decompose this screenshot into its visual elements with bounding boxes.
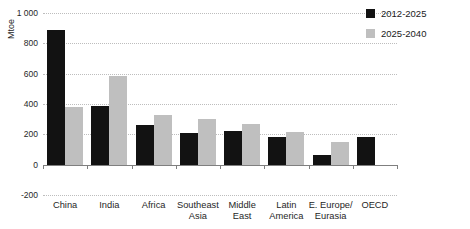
axis-tick [397, 165, 398, 169]
bar [224, 131, 242, 165]
legend-label: 2025-2040 [381, 28, 426, 39]
y-axis-tick-label: 0 [0, 160, 38, 170]
category-group [43, 13, 87, 165]
legend-item-2025-2040: 2025-2040 [366, 28, 426, 39]
bar [91, 106, 109, 165]
bar [313, 155, 331, 165]
axis-tick [264, 165, 265, 169]
category-group [220, 13, 264, 165]
y-axis-tick-label: 1 000 [0, 8, 38, 18]
category-group [132, 13, 176, 165]
bar [357, 137, 375, 164]
bar [136, 125, 154, 164]
axis-tick [309, 165, 310, 169]
legend: 2012-2025 2025-2040 [366, 8, 426, 39]
plot-area [43, 13, 397, 195]
x-axis-category-label: OECD [344, 200, 406, 211]
bar [242, 124, 260, 164]
axis-tick [132, 165, 133, 169]
y-axis-tick-label: 600 [0, 69, 38, 79]
axis-tick [353, 165, 354, 169]
category-group [264, 13, 308, 165]
legend-swatch-black [366, 9, 375, 18]
bar [47, 30, 65, 165]
bar [331, 142, 349, 165]
legend-label: 2012-2025 [381, 8, 426, 19]
bar [65, 107, 83, 165]
y-axis-tick-label: 400 [0, 99, 38, 109]
axis-tick [176, 165, 177, 169]
bar [268, 137, 286, 164]
y-axis-tick-label: -200 [0, 190, 38, 200]
axis-tick [220, 165, 221, 169]
bars [43, 13, 397, 165]
energy-demand-growth-bar-chart: Mtoe 1 0008006004002000-200 ChinaIndiaAf… [0, 0, 470, 229]
axis-tick [87, 165, 88, 169]
bar [109, 76, 127, 165]
bar [198, 119, 216, 165]
y-axis-tick-label: 800 [0, 38, 38, 48]
axis-tick [43, 165, 44, 169]
legend-item-2012-2025: 2012-2025 [366, 8, 426, 19]
category-group [176, 13, 220, 165]
category-group [87, 13, 131, 165]
legend-swatch-gray [366, 29, 375, 38]
bar [154, 115, 172, 165]
category-group [309, 13, 353, 165]
bar [180, 133, 198, 165]
bar [286, 132, 304, 165]
gridline [43, 195, 397, 196]
y-axis-tick-label: 200 [0, 129, 38, 139]
